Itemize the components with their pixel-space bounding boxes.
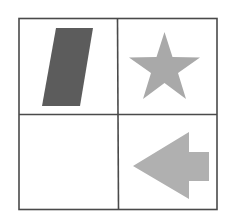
parallelogram-shape xyxy=(42,28,93,106)
star-shape xyxy=(129,32,200,99)
cell-bottom-right xyxy=(133,132,209,199)
cell-top-left xyxy=(42,28,93,106)
puzzle-diagram xyxy=(0,0,233,220)
left-arrow-shape xyxy=(133,132,209,199)
cell-top-right xyxy=(129,32,200,99)
grid-svg xyxy=(0,0,233,220)
